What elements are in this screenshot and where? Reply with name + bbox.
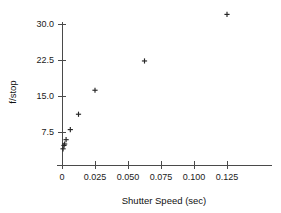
y-axis-title: f/stop xyxy=(7,80,18,103)
y-tick-label: 7.5 xyxy=(41,127,54,137)
data-point xyxy=(224,12,229,17)
data-point xyxy=(92,88,97,93)
y-tick-label: 22.5 xyxy=(36,55,54,65)
x-tick-label: 0.025 xyxy=(84,172,107,182)
data-point xyxy=(60,146,65,151)
x-tick-label-group: 00.0250.0500.0750.1000.125 xyxy=(59,172,238,182)
data-point xyxy=(68,127,73,132)
plot-area: 7.515.022.530.0 00.0250.0500.0750.1000.1… xyxy=(0,0,281,213)
x-tick-label: 0.050 xyxy=(117,172,140,182)
x-tick-label: 0.075 xyxy=(150,172,173,182)
x-tick-label: 0.125 xyxy=(216,172,239,182)
data-point-group xyxy=(60,12,229,152)
y-tick-label: 15.0 xyxy=(36,91,54,101)
scatter-chart: 7.515.022.530.0 00.0250.0500.0750.1000.1… xyxy=(0,0,281,213)
data-point xyxy=(142,58,147,63)
data-point xyxy=(76,112,81,117)
x-tick-label: 0 xyxy=(59,172,64,182)
y-tick-label: 30.0 xyxy=(36,19,54,29)
x-tick-label: 0.100 xyxy=(183,172,206,182)
x-axis-title: Shutter Speed (sec) xyxy=(122,195,207,206)
y-tick-label-group: 7.515.022.530.0 xyxy=(36,19,54,137)
